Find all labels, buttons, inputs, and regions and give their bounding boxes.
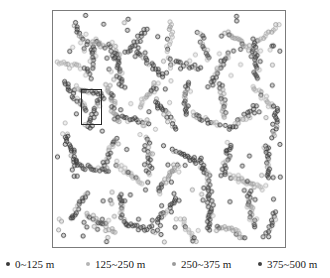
legend-marker-icon (172, 262, 176, 266)
legend-item-label: 375~500 m (267, 258, 317, 270)
legend-marker-icon (86, 262, 90, 266)
legend-marker-icon (258, 262, 262, 266)
legend-item-0[interactable]: 0~125 m (6, 258, 54, 270)
plot-frame (52, 10, 286, 248)
legend-marker-icon (6, 262, 10, 266)
legend-item-label: 125~250 m (95, 258, 145, 270)
scatter-map-figure: 0~125 m 125~250 m 250~375 m 375~500 m (0, 0, 330, 278)
legend-item-label: 0~125 m (15, 258, 54, 270)
legend-item-2[interactable]: 250~375 m (172, 258, 231, 270)
legend-item-label: 250~375 m (181, 258, 231, 270)
legend-item-3[interactable]: 375~500 m (258, 258, 317, 270)
scatter-plot-canvas (53, 11, 285, 247)
legend-item-1[interactable]: 125~250 m (86, 258, 145, 270)
legend: 0~125 m 125~250 m 250~375 m 375~500 m (0, 256, 330, 276)
